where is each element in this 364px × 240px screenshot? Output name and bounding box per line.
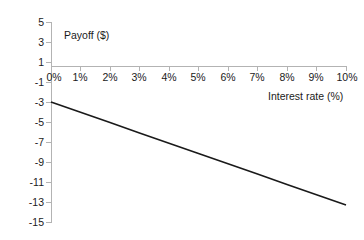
series-plot-area bbox=[0, 0, 364, 240]
payoff-series-line bbox=[51, 102, 346, 205]
line-chart: 5 3 1 -1 -3 -5 -7 -9 -11 -13 -15 0% 1% 2… bbox=[0, 0, 364, 240]
